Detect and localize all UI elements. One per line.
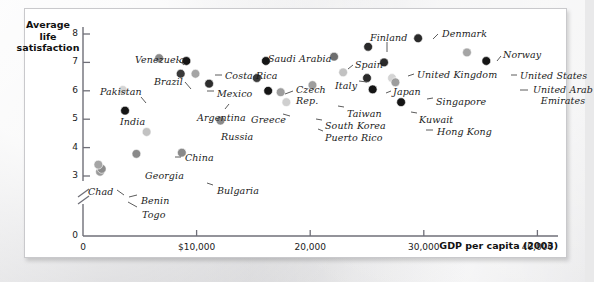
leader-line-argentina: [225, 104, 229, 109]
point-label-togo: Togo: [142, 210, 166, 221]
leader-line-singapore: [427, 98, 433, 99]
leader-line-norway: [497, 56, 501, 61]
data-point-italy[interactable]: [339, 68, 348, 77]
data-point-south-korea[interactable]: [276, 88, 285, 97]
point-label-china: China: [185, 153, 214, 164]
data-point-norway[interactable]: [463, 48, 472, 57]
x-tick-label-20,000: 20,000: [280, 242, 340, 252]
leader-line-spain: [348, 65, 353, 69]
leader-line-south-korea: [316, 119, 322, 120]
point-label-saudi-arabia: Saudi Arabia: [268, 54, 331, 65]
point-label-argentina: Argentina: [197, 113, 246, 124]
point-label-india: India: [120, 117, 145, 128]
data-point-chad[interactable]: [94, 160, 103, 169]
leader-line-bulgaria: [207, 183, 213, 185]
point-label-singapore: Singapore: [436, 97, 486, 108]
data-point-argentina[interactable]: [205, 79, 214, 88]
data-point-india[interactable]: [121, 106, 130, 115]
x-tick-label-0: 0: [53, 242, 113, 252]
leader-line-united-kingdom: [408, 74, 414, 76]
leader-line-denmark: [433, 34, 438, 39]
point-label-taiwan: Taiwan: [347, 109, 382, 120]
point-label-costa-rica: Costa Rica: [225, 71, 278, 82]
point-label-puerto-rico: Puerto Rico: [325, 133, 383, 144]
point-label-united-arab-emirates: United Arab Emirates: [532, 85, 594, 106]
data-point-greece[interactable]: [264, 86, 273, 95]
point-label-pakistan: Pakistan: [100, 87, 142, 98]
y-tick-label-8: 8: [63, 28, 78, 38]
data-point-puerto-rico[interactable]: [282, 98, 291, 107]
data-point-mexico[interactable]: [191, 69, 200, 78]
leader-line-kuwait: [411, 112, 417, 113]
scatter-plot-area: 03456780$10,00020,00030,00040,000TogoBen…: [25, 9, 566, 257]
point-label-chad: Chad: [88, 187, 114, 198]
y-tick-label-4: 4: [63, 142, 78, 152]
leader-line-brazil: [185, 82, 191, 89]
x-tick-label-30,000: 30,000: [394, 242, 454, 252]
point-label-kuwait: Kuwait: [419, 115, 453, 126]
x-tick-label-40,000: 40,000: [507, 242, 567, 252]
y-tick-label-7: 7: [63, 56, 78, 66]
data-point-hong-kong[interactable]: [397, 98, 406, 107]
point-label-georgia: Georgia: [145, 171, 184, 182]
data-point-denmark[interactable]: [414, 34, 423, 43]
point-label-benin: Benin: [141, 196, 169, 207]
data-point-kuwait[interactable]: [368, 85, 377, 94]
leader-line-czech-rep: [285, 91, 293, 94]
leader-line-japan: [386, 91, 391, 93]
leader-line-togo: [128, 202, 137, 207]
chart-panel: Averagelifesatisfaction GDP per capita (…: [24, 8, 567, 258]
point-label-mexico: Mexico: [217, 89, 252, 100]
point-label-norway: Norway: [503, 50, 541, 61]
point-label-italy: Italy: [335, 81, 357, 92]
point-label-denmark: Denmark: [442, 29, 487, 40]
data-point-china[interactable]: [142, 128, 151, 137]
data-point-georgia[interactable]: [132, 149, 141, 158]
point-label-finland: Finland: [370, 33, 407, 44]
point-label-south-korea: South Korea: [325, 121, 386, 132]
leader-line-chad: [117, 190, 124, 195]
point-label-russia: Russia: [221, 132, 253, 143]
point-label-czech-rep: Czech Rep.: [296, 85, 336, 106]
data-point-finland[interactable]: [364, 42, 373, 51]
leader-line-pakistan: [141, 97, 146, 103]
y-tick-label-0: 0: [63, 230, 78, 240]
y-tick-label-6: 6: [63, 85, 78, 95]
point-label-japan: Japan: [393, 87, 421, 98]
leader-line-puerto-rico: [318, 129, 323, 131]
point-label-united-states: United States: [520, 71, 587, 82]
data-point-japan[interactable]: [363, 74, 372, 83]
y-tick-label-3: 3: [63, 170, 78, 180]
point-label-united-kingdom: United Kingdom: [417, 70, 497, 81]
point-label-venezuela: Venezuela: [135, 55, 185, 66]
leader-line-benin: [129, 195, 137, 197]
point-label-bulgaria: Bulgaria: [217, 186, 259, 197]
point-label-hong-kong: Hong Kong: [437, 127, 492, 138]
point-label-brazil: Brazil: [154, 77, 183, 88]
x-tick-label-$10,000: $10,000: [167, 242, 227, 252]
data-point-united-states[interactable]: [482, 57, 491, 66]
point-label-greece: Greece: [251, 115, 286, 126]
point-label-spain: Spain: [355, 60, 383, 71]
leader-line-taiwan: [338, 106, 344, 107]
y-tick-label-5: 5: [63, 113, 78, 123]
